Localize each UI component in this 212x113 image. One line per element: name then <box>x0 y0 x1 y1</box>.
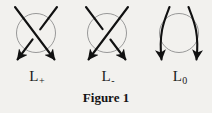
l-plus-svg <box>2 0 72 68</box>
label-l-plus-base: L <box>29 68 38 84</box>
under-strand-ne-sw <box>18 7 58 60</box>
label-l-plus-subscript: + <box>39 75 45 86</box>
crossing-ball-circle <box>88 14 127 53</box>
crossing-diagrams-row <box>0 0 212 68</box>
over-strand-nw-se <box>15 7 55 60</box>
diagram-l-zero <box>145 0 212 68</box>
smoothed-strand-left <box>161 7 170 60</box>
l-zero-svg <box>145 0 212 68</box>
label-l-minus-subscript: - <box>111 75 115 86</box>
figure-caption: Figure 1 <box>0 90 212 106</box>
under-strand-nw-se <box>86 7 126 60</box>
label-l-zero-subscript: 0 <box>182 75 188 86</box>
label-l-minus: L- <box>73 66 143 91</box>
diagram-l-plus <box>2 0 72 68</box>
smoothed-strand-right <box>189 7 198 60</box>
crossing-ball-circle <box>17 14 56 53</box>
label-l-zero: L0 <box>145 66 212 91</box>
l-minus-svg <box>73 0 143 68</box>
label-l-zero-base: L <box>173 68 182 84</box>
diagram-l-minus <box>73 0 143 68</box>
crossing-labels-row: L+ L- L0 <box>0 66 212 88</box>
figure-1: L+ L- L0 Figure 1 <box>0 0 212 113</box>
over-strand-ne-sw <box>89 7 129 60</box>
label-l-minus-base: L <box>101 68 110 84</box>
label-l-plus: L+ <box>2 66 72 91</box>
